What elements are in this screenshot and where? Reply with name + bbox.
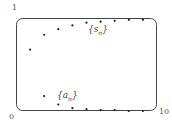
s-data-point: [57, 28, 59, 30]
a-data-point: [57, 103, 59, 105]
y-max-label: 1: [12, 4, 17, 12]
a-series-label: {an}: [57, 91, 78, 102]
s-series-label: {sn}: [88, 25, 108, 36]
s-data-point: [114, 20, 116, 22]
s-data-point: [43, 34, 45, 36]
plot-area: [0, 0, 172, 127]
a-data-point: [100, 109, 102, 111]
s-close-brace: }: [102, 24, 108, 34]
x-max-label: 10: [159, 108, 169, 116]
x-min-label: 0: [9, 113, 14, 121]
s-series-name: {s: [88, 24, 98, 34]
plot-frame: [17, 19, 157, 111]
a-data-point: [85, 108, 87, 110]
s-data-point: [71, 24, 73, 26]
s-data-point: [142, 19, 144, 21]
s-data-point: [100, 21, 102, 23]
a-close-brace: }: [72, 90, 78, 100]
s-data-point: [128, 19, 130, 21]
a-data-point: [43, 95, 45, 97]
a-data-point: [71, 107, 73, 109]
s-data-point: [29, 49, 31, 51]
a-data-point: [142, 110, 144, 112]
a-data-point: [114, 109, 116, 111]
a-series-name: {a: [57, 90, 68, 100]
a-data-point: [128, 110, 130, 112]
